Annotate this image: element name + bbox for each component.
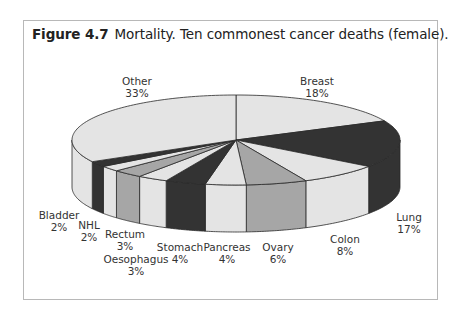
slice-label-percent: 17% [396, 223, 422, 235]
slice-label-percent: 2% [78, 231, 100, 243]
pie-side-rectum [116, 171, 139, 224]
slice-label-percent: 3% [105, 240, 145, 252]
pie-side-ovary [246, 181, 306, 232]
slice-label-percent: 6% [262, 253, 293, 265]
slice-label-percent: 33% [122, 87, 152, 99]
slice-label-bladder: Bladder2% [39, 209, 80, 233]
slice-label-nhl: NHL2% [78, 219, 100, 243]
pie-chart [0, 0, 465, 316]
slice-label-percent: 18% [300, 87, 334, 99]
slice-label-name: Oesophagus [103, 253, 168, 265]
slice-label-rectum: Rectum3% [105, 228, 145, 252]
slice-label-name: Breast [300, 75, 334, 87]
slice-label-lung: Lung17% [396, 211, 422, 235]
slice-label-ovary: Ovary6% [262, 241, 293, 265]
slice-label-name: Lung [396, 211, 422, 223]
slice-label-percent: 2% [39, 221, 80, 233]
slice-label-percent: 4% [203, 253, 250, 265]
slice-label-name: Stomach [157, 241, 203, 253]
pie-side-stomach [166, 181, 205, 231]
slice-label-name: Ovary [262, 241, 293, 253]
slice-label-oesophagus: Oesophagus3% [103, 253, 168, 277]
slice-label-name: Bladder [39, 209, 80, 221]
slice-label-pancreas: Pancreas4% [203, 241, 250, 265]
slice-label-other: Other33% [122, 75, 152, 99]
slice-label-name: NHL [78, 219, 100, 231]
slice-label-breast: Breast18% [300, 75, 334, 99]
slice-label-name: Colon [330, 233, 360, 245]
pie-side-oesophagus [140, 176, 167, 227]
slice-label-name: Rectum [105, 228, 145, 240]
pie-side-nhl [103, 166, 116, 217]
slice-label-percent: 8% [330, 245, 360, 257]
slice-label-colon: Colon8% [330, 233, 360, 257]
pie-side-pancreas [205, 184, 246, 232]
slice-label-name: Other [122, 75, 152, 87]
pie-side-bladder [92, 162, 103, 214]
slice-label-name: Pancreas [203, 241, 250, 253]
pie-top-face [72, 95, 400, 185]
slice-label-percent: 3% [103, 265, 168, 277]
